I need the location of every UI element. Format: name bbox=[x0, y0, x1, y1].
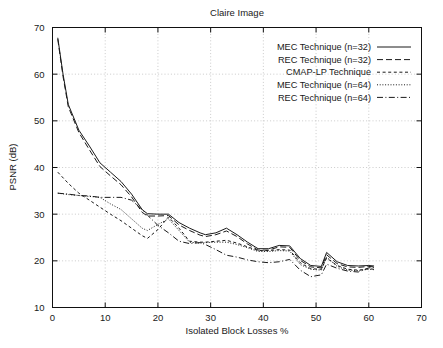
legend-label-2: CMAP-LP Technique bbox=[286, 67, 371, 77]
y-tick-label: 60 bbox=[34, 69, 45, 80]
chart-title: Claire Image bbox=[210, 7, 264, 18]
x-tick-label: 30 bbox=[205, 312, 216, 323]
legend-label-4: REC Technique (n=64) bbox=[278, 93, 371, 103]
legend-label-0: MEC Technique (n=32) bbox=[277, 42, 371, 52]
x-tick-label: 20 bbox=[153, 312, 164, 323]
x-tick-label: 40 bbox=[258, 312, 269, 323]
psnr-line-chart: Claire Image 010203040506070 10203040506… bbox=[0, 0, 443, 348]
legend-label-1: REC Technique (n=32) bbox=[278, 55, 371, 65]
figure-caption bbox=[0, 340, 443, 348]
x-tick-label: 10 bbox=[100, 312, 111, 323]
x-tick-label: 0 bbox=[50, 312, 55, 323]
x-tick-label: 70 bbox=[416, 312, 427, 323]
y-tick-label: 20 bbox=[34, 255, 45, 266]
x-axis-title: Isolated Block Losses % bbox=[186, 325, 290, 336]
y-tick-label: 30 bbox=[34, 209, 45, 220]
x-tick-label: 60 bbox=[363, 312, 374, 323]
figure-container: Claire Image 010203040506070 10203040506… bbox=[0, 0, 443, 348]
y-tick-labels: 10203040506070 bbox=[34, 22, 45, 313]
y-axis-title: PSNR (dB) bbox=[7, 144, 18, 191]
y-tick-label: 50 bbox=[34, 115, 45, 126]
y-tick-label: 10 bbox=[34, 302, 45, 313]
chart-legend: MEC Technique (n=32)REC Technique (n=32)… bbox=[277, 42, 411, 102]
y-tick-label: 70 bbox=[34, 22, 45, 33]
x-tick-labels: 010203040506070 bbox=[50, 312, 427, 323]
legend-label-3: MEC Technique (n=64) bbox=[277, 80, 371, 90]
y-tick-label: 40 bbox=[34, 162, 45, 173]
x-tick-label: 50 bbox=[311, 312, 322, 323]
